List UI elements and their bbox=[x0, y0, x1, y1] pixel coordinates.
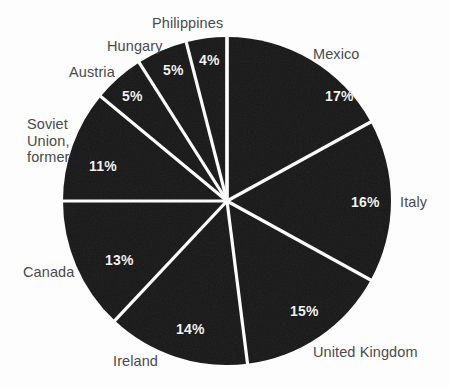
pie-category-label-line: Austria bbox=[69, 64, 115, 81]
pie-category-label-line: Italy bbox=[400, 194, 427, 211]
pie-chart: Mexico17%Italy16%United Kingdom15%Irelan… bbox=[0, 0, 449, 387]
pie-percent-label: 5% bbox=[163, 62, 184, 78]
pie-category-label: Ireland bbox=[113, 353, 158, 370]
pie-category-label: Hungary bbox=[107, 38, 163, 55]
pie-percent-label: 13% bbox=[105, 252, 134, 268]
pie-percent-label: 16% bbox=[351, 194, 380, 210]
pie-percent-label: 5% bbox=[122, 88, 143, 104]
pie-category-label-line: former bbox=[27, 149, 70, 166]
pie-category-label: SovietUnion,former bbox=[27, 116, 70, 166]
pie-category-label-line: Philippines bbox=[152, 15, 223, 32]
pie-category-label-line: Ireland bbox=[113, 353, 158, 370]
pie-percent-label: 15% bbox=[290, 303, 319, 319]
pie-category-label: Philippines bbox=[152, 15, 223, 32]
pie-category-label: Canada bbox=[23, 264, 74, 281]
pie-category-label: Mexico bbox=[313, 46, 360, 63]
pie-texture-overlay bbox=[0, 0, 449, 387]
pie-category-label-line: United Kingdom bbox=[313, 344, 418, 361]
pie-category-label: Italy bbox=[400, 194, 427, 211]
pie-percent-label: 17% bbox=[325, 88, 354, 104]
pie-percent-label: 4% bbox=[199, 52, 220, 68]
pie-category-label-line: Mexico bbox=[313, 46, 360, 63]
pie-category-label-line: Soviet bbox=[27, 116, 70, 133]
pie-category-label-line: Canada bbox=[23, 264, 74, 281]
pie-category-label-line: Union, bbox=[27, 133, 70, 150]
pie-category-label-line: Hungary bbox=[107, 38, 163, 55]
pie-category-label: Austria bbox=[69, 64, 115, 81]
pie-percent-label: 14% bbox=[176, 321, 205, 337]
pie-chart-svg bbox=[0, 0, 449, 387]
pie-percent-label: 11% bbox=[89, 158, 117, 174]
pie-category-label: United Kingdom bbox=[313, 344, 418, 361]
